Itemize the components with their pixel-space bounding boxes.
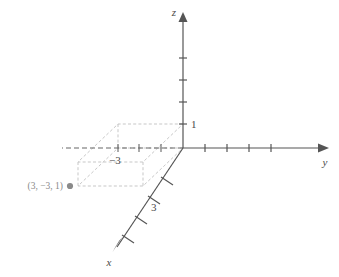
y-axis-label: y <box>322 156 328 168</box>
x-tick-label-3: 3 <box>151 201 157 213</box>
x-axis-arrowhead-fill <box>113 237 123 252</box>
z-axis-arrowhead <box>179 12 188 22</box>
z-axis-group <box>179 22 187 148</box>
three-d-axes-plot: z y x 1 −3 3 (3, −3, 1) <box>0 0 339 277</box>
y-axis-group <box>183 144 318 152</box>
reference-box-group <box>78 124 183 186</box>
y-axis-arrowhead <box>318 144 329 153</box>
x-tick-3 <box>135 216 147 224</box>
box-bottom-face <box>78 148 183 186</box>
y-tick-label-neg-3: −3 <box>109 154 121 166</box>
negative-y-axis-group <box>62 144 183 152</box>
x-axis-group <box>117 148 183 247</box>
z-axis-label: z <box>171 6 177 18</box>
data-point-marker <box>67 183 73 189</box>
x-tick-1 <box>161 177 173 185</box>
z-tick-label-1: 1 <box>191 118 197 130</box>
x-tick-4 <box>122 235 134 243</box>
point-coordinate-label: (3, −3, 1) <box>28 181 63 192</box>
box-top-face <box>78 124 183 162</box>
coordinate-figure: z y x 1 −3 3 (3, −3, 1) <box>0 0 339 277</box>
x-axis-label: x <box>106 256 112 268</box>
